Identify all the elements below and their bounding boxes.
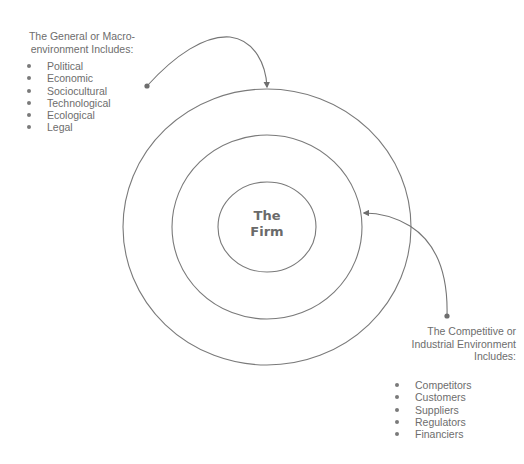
macro-environment-list: Political Economic Sociocultural Technol… [27,60,147,134]
macro-arrow [147,37,267,87]
macro-environment-block: The General or Macro- environment Includ… [27,30,147,134]
list-item: Political [27,60,147,72]
list-item: Economic [27,72,147,84]
bullet-icon [395,383,399,387]
bullet-icon [27,64,31,68]
list-item: Customers [395,391,520,403]
list-item: Technological [27,97,147,109]
list-item: Regulators [395,416,520,428]
firm-label: The Firm [219,208,315,240]
list-item: Ecological [27,109,147,121]
bullet-icon [395,408,399,412]
bullet-icon [27,89,31,93]
list-item: Suppliers [395,404,520,416]
bullet-icon [27,76,31,80]
micro-arrow-dot [444,313,449,318]
bullet-icon [395,395,399,399]
list-item: Financiers [395,428,520,440]
list-item: Competitors [395,379,520,391]
bullet-icon [395,432,399,436]
competitive-environment-block: The Competitive or Industrial Environmen… [395,354,520,440]
bullet-icon [27,125,31,129]
bullet-icon [27,101,31,105]
competitive-environment-list: Competitors Customers Suppliers Regulato… [395,379,520,440]
macro-environment-title: The General or Macro- environment Includ… [27,30,137,55]
bullet-icon [27,113,31,117]
bullet-icon [395,420,399,424]
list-item: Legal [27,121,147,133]
list-item: Sociocultural [27,85,147,97]
competitive-environment-title: The Competitive or Industrial Environmen… [395,325,520,363]
